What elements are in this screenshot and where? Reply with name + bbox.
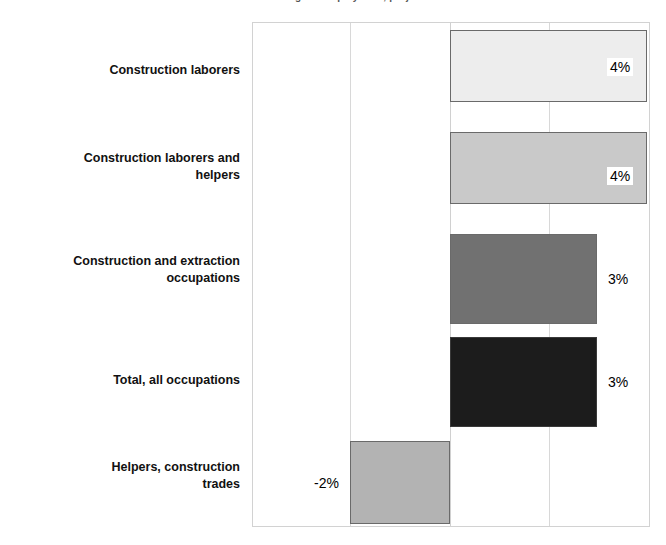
category-label-total-all-occupations: Total, all occupations: [0, 372, 240, 389]
category-label-construction-laborers-and-helpers: Construction laborers and helpers: [0, 150, 240, 184]
value-label-helpers-construction-trades: -2%: [311, 474, 342, 492]
value-label-construction-and-extraction-occupations: 3%: [605, 270, 631, 288]
chart-title: Percent change in employment, projected: [0, 0, 666, 2]
value-label-total-all-occupations: 3%: [605, 373, 631, 391]
value-label-construction-laborers-and-helpers: 4%: [607, 167, 633, 185]
bar-total-all-occupations: [450, 337, 597, 427]
category-label-construction-and-extraction-occupations: Construction and extraction occupations: [0, 253, 240, 287]
bar-chart-figure: Percent change in employment, projected …: [0, 0, 666, 545]
bar-helpers-construction-trades: [350, 441, 450, 524]
value-label-construction-laborers: 4%: [607, 58, 633, 76]
category-label-construction-laborers: Construction laborers: [0, 62, 240, 79]
category-label-helpers-construction-trades: Helpers, construction trades: [0, 459, 240, 493]
bar-construction-and-extraction-occupations: [450, 234, 597, 324]
